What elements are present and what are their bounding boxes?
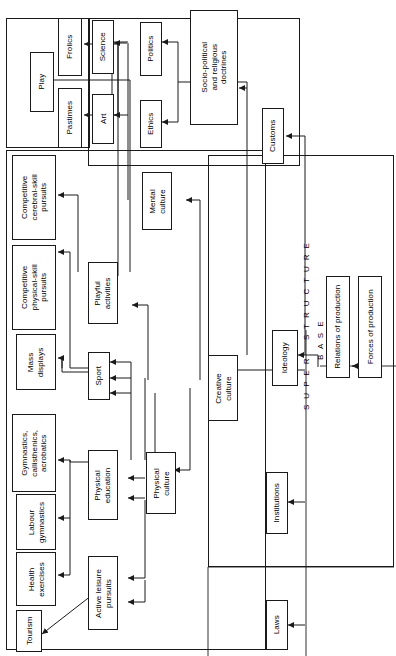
node-sport-label: Sport	[94, 366, 104, 386]
node-laws[interactable]: Laws	[266, 600, 288, 650]
node-labour-gymnastics[interactable]: Labour gymnastics	[16, 494, 56, 550]
node-mental-culture[interactable]: Mental culture	[142, 172, 172, 230]
node-creative-culture[interactable]: Creative culture	[208, 355, 238, 421]
node-play[interactable]: Play	[30, 52, 54, 112]
node-mass-displays[interactable]: Mass displays	[16, 334, 56, 390]
node-socio-political-doctrines-label: Socio-political and religious doctrines	[200, 42, 229, 93]
node-gymnastics-label: Gymnastics, callisthenics, acrobatics	[20, 430, 49, 477]
node-competitive-cerebral-pursuits-label: Competitive cerebral-skill pursuits	[20, 174, 49, 220]
node-playful-activities[interactable]: Playful activities	[88, 262, 118, 324]
node-relations-of-production-label: Relations of production	[333, 285, 343, 369]
node-ideology[interactable]: Ideology	[272, 330, 298, 386]
node-frolics-label: Frolics	[65, 35, 75, 59]
node-active-leisure-pursuits-label: Active leisure pursuits	[94, 569, 113, 618]
node-science-label: Science	[98, 32, 108, 61]
node-play-label: Play	[37, 74, 47, 90]
node-sport[interactable]: Sport	[88, 352, 110, 400]
node-competitive-physical-pursuits[interactable]: Competitive physical-skill pursuits	[12, 245, 56, 330]
node-socio-political-doctrines[interactable]: Socio-political and religious doctrines	[190, 10, 238, 125]
node-institutions[interactable]: Institutions	[266, 472, 288, 534]
band-label-superstructure: S U P E R S T R U C T U R E	[302, 241, 311, 410]
node-art[interactable]: Art	[92, 94, 114, 144]
band-label-base: B A S E	[316, 320, 325, 360]
node-competitive-physical-pursuits-label: Competitive physical-skill pursuits	[20, 264, 49, 310]
node-customs[interactable]: Customs	[262, 108, 284, 164]
node-science[interactable]: Science	[92, 20, 114, 74]
node-creative-culture-label: Creative culture	[214, 373, 233, 404]
node-relations-of-production[interactable]: Relations of production	[326, 276, 350, 378]
node-playful-activities-label: Playful activities	[94, 277, 113, 309]
node-frolics[interactable]: Frolics	[58, 18, 82, 76]
node-customs-label: Customs	[268, 120, 278, 152]
node-laws-label: Laws	[272, 615, 282, 634]
node-pastimes-label: Pastimes	[65, 101, 75, 135]
diagram-canvas: Play Frolics Pastimes Science Art Politi…	[0, 0, 396, 656]
node-mental-culture-label: Mental culture	[148, 189, 167, 214]
node-tourism[interactable]: Tourism	[16, 610, 42, 652]
node-art-label: Art	[98, 114, 108, 125]
node-institutions-label: Institutions	[272, 483, 282, 522]
node-physical-education-label: Physical education	[94, 467, 113, 503]
node-physical-education[interactable]: Physical education	[88, 450, 118, 520]
node-ethics-label: Ethics	[146, 113, 156, 135]
node-ethics[interactable]: Ethics	[140, 100, 162, 148]
node-forces-of-production-label: Forces of production	[365, 290, 375, 365]
node-mass-displays-label: Mass displays	[26, 347, 45, 377]
node-active-leisure-pursuits[interactable]: Active leisure pursuits	[88, 556, 118, 630]
node-tourism-label: Tourism	[24, 617, 34, 646]
node-politics[interactable]: Politics	[140, 22, 162, 76]
node-ideology-label: Ideology	[280, 342, 290, 373]
node-competitive-cerebral-pursuits[interactable]: Competitive cerebral-skill pursuits	[12, 155, 56, 240]
node-politics-label: Politics	[146, 36, 156, 62]
node-health-exercises-label: Health exercises	[26, 562, 45, 597]
node-forces-of-production[interactable]: Forces of production	[358, 276, 382, 378]
node-health-exercises[interactable]: Health exercises	[16, 552, 56, 606]
node-physical-culture[interactable]: Physical culture	[146, 452, 176, 514]
node-physical-culture-label: Physical culture	[152, 468, 171, 499]
node-gymnastics-callisthenics-acrobatics[interactable]: Gymnastics, callisthenics, acrobatics	[12, 414, 56, 492]
node-labour-gymnastics-label: Labour gymnastics	[27, 501, 46, 542]
node-pastimes[interactable]: Pastimes	[58, 88, 82, 148]
